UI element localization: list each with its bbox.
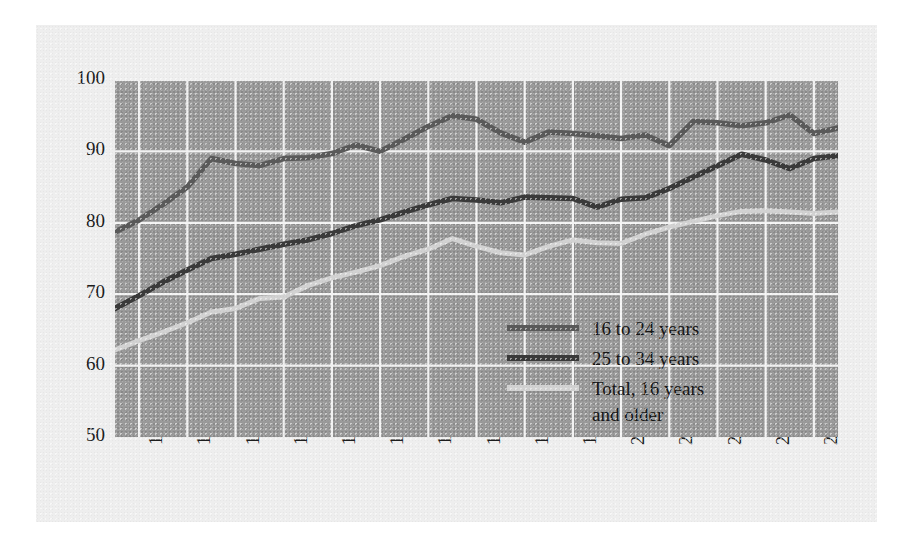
legend-label: Total, 16 years and older [592,376,704,428]
legend: 16 to 24 years25 to 34 yearsTotal, 16 ye… [507,316,704,432]
legend-label: 16 to 24 years [592,316,699,342]
legend-item: 16 to 24 years [507,316,704,342]
y-axis-tick-label: 70 [59,281,105,303]
legend-item: Total, 16 years and older [507,376,704,428]
line-chart [115,80,838,437]
legend-swatch [507,325,579,331]
y-axis-tick-label: 60 [59,353,105,375]
legend-label: 25 to 34 years [592,346,699,372]
legend-item: 25 to 34 years [507,346,704,372]
plot-area: 16 to 24 years25 to 34 yearsTotal, 16 ye… [115,80,838,437]
y-axis-tick-label: 100 [59,67,105,89]
legend-swatch [507,385,579,391]
figure-panel: 5060708090100 19801982198419861988199019… [36,25,877,522]
legend-swatch [507,355,579,361]
y-axis-tick-label: 90 [59,138,105,160]
y-axis-tick-label: 50 [59,424,105,446]
y-axis-tick-label: 80 [59,210,105,232]
